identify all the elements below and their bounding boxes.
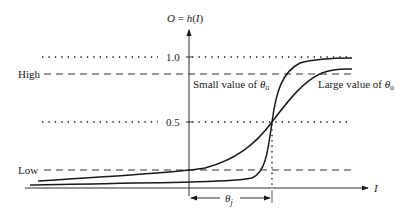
threshold-label: θj <box>225 192 233 207</box>
level-1-label: 1.0 <box>166 51 180 63</box>
x-axis-label: I <box>373 182 379 194</box>
high-label: High <box>18 68 41 80</box>
sigmoid-diagram: O = h(I) I 1.0 High 0.5 Low Small value … <box>0 0 412 212</box>
low-label: Low <box>18 164 38 176</box>
small-theta-label: Small value of θo <box>193 78 269 92</box>
y-axis-label: O = h(I) <box>167 12 204 25</box>
small-theta-curve <box>30 58 352 185</box>
level-half-label: 0.5 <box>166 116 180 128</box>
large-theta-label: Large value of θo <box>318 78 394 92</box>
